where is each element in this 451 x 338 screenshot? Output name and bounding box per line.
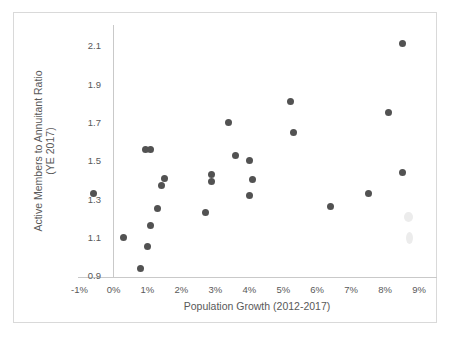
data-point: [287, 98, 294, 105]
data-point: [246, 157, 253, 164]
x-tick-label: 8%: [368, 284, 402, 295]
y-tick-label: 1.3: [71, 194, 101, 205]
data-point: [202, 209, 209, 216]
data-point: [385, 109, 392, 116]
faint-artifact: [404, 212, 413, 222]
y-tick-label: 0.9: [71, 270, 101, 281]
faint-artifact: [406, 232, 413, 244]
x-tick-label: 7%: [334, 284, 368, 295]
x-tick-label: 9%: [402, 284, 436, 295]
plot-area: Active Members to Annuitant Ratio (YE 20…: [0, 0, 451, 338]
data-point: [246, 192, 253, 199]
scatter-chart-screenshot: Active Members to Annuitant Ratio (YE 20…: [0, 0, 451, 338]
data-point: [158, 182, 165, 189]
data-point: [154, 205, 161, 212]
data-point: [144, 243, 151, 250]
x-tick-label: 4%: [232, 284, 266, 295]
y-axis-title: Active Members to Annuitant Ratio (YE 20…: [32, 70, 56, 231]
data-point: [225, 119, 232, 126]
y-axis-line: [113, 25, 114, 278]
x-tick-label: 3%: [198, 284, 232, 295]
data-point: [399, 40, 406, 47]
data-point: [327, 203, 334, 210]
x-tick-label: 1%: [130, 284, 164, 295]
data-point: [147, 222, 154, 229]
data-point: [208, 178, 215, 185]
x-tick-label: 2%: [164, 284, 198, 295]
x-tick-label: 6%: [300, 284, 334, 295]
x-tick-label: 5%: [266, 284, 300, 295]
y-tick-label: 1.7: [71, 117, 101, 128]
data-point: [249, 176, 256, 183]
y-axis-title-line2: (YE 2017): [44, 70, 56, 231]
data-point: [147, 146, 154, 153]
x-axis-line: [78, 277, 437, 278]
data-point: [137, 265, 144, 272]
data-point: [161, 175, 168, 182]
x-axis-title: Population Growth (2012-2017): [184, 300, 331, 312]
y-tick-label: 1.5: [71, 155, 101, 166]
data-point: [365, 190, 372, 197]
data-point: [290, 129, 297, 136]
y-tick-label: 1.9: [71, 79, 101, 90]
data-point: [232, 152, 239, 159]
data-point: [399, 169, 406, 176]
x-tick-label: 0%: [97, 284, 131, 295]
data-point: [120, 234, 127, 241]
y-tick-label: 2.1: [71, 40, 101, 51]
y-tick-label: 1.1: [71, 232, 101, 243]
data-point: [208, 171, 215, 178]
y-axis-title-line1: Active Members to Annuitant Ratio: [32, 70, 44, 231]
x-tick-label: -1%: [63, 284, 97, 295]
